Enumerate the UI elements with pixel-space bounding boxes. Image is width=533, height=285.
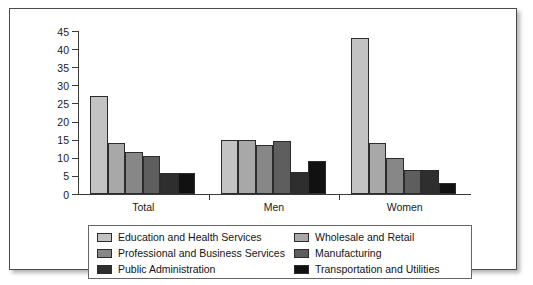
x-axis-group-separator [339, 195, 340, 200]
bar [369, 143, 387, 194]
y-axis-tick-label: 15 [57, 135, 69, 146]
legend-item[interactable]: Professional and Business Services [97, 246, 285, 261]
x-axis-category-label: Total [78, 201, 209, 213]
bar [386, 158, 404, 194]
legend-swatch-icon [294, 249, 309, 258]
legend-item-label: Manufacturing [315, 248, 382, 259]
chart-legend: Education and Health ServicesProfessiona… [88, 225, 472, 279]
legend-column-right: Wholesale and RetailManufacturingTranspo… [294, 230, 440, 278]
legend-swatch-icon [97, 249, 112, 258]
legend-swatch-icon [97, 233, 112, 242]
x-axis-category-label: Women [339, 201, 470, 213]
bar [238, 140, 256, 194]
legend-item[interactable]: Public Administration [97, 262, 285, 277]
legend-swatch-icon [294, 265, 309, 274]
y-axis-tick: 0 [72, 194, 79, 195]
x-axis-group-separator [209, 195, 210, 200]
bar [221, 140, 239, 194]
bar [404, 170, 422, 194]
plot-area [78, 31, 470, 194]
y-axis-tick-label: 45 [57, 26, 69, 37]
bar [351, 38, 369, 194]
bar [421, 170, 439, 194]
legend-item-label: Wholesale and Retail [315, 232, 414, 243]
y-axis-tick-label: 40 [57, 44, 69, 55]
x-axis-category-label: Men [209, 201, 340, 213]
bar [125, 152, 143, 194]
legend-swatch-icon [97, 265, 112, 274]
bar [90, 96, 108, 194]
y-axis-tick-label: 35 [57, 62, 69, 73]
legend-column-left: Education and Health ServicesProfessiona… [97, 230, 285, 278]
x-axis-line [78, 194, 471, 195]
y-axis-tick-label: 30 [57, 81, 69, 92]
legend-swatch-icon [294, 233, 309, 242]
bar [160, 173, 178, 194]
legend-item[interactable]: Education and Health Services [97, 230, 285, 245]
bar [273, 141, 291, 194]
y-axis-tick-label: 10 [57, 153, 69, 164]
legend-item[interactable]: Wholesale and Retail [294, 230, 440, 245]
y-axis-tick-label: 5 [63, 171, 69, 182]
bar [143, 156, 161, 194]
y-axis-tick-label: 25 [57, 99, 69, 110]
legend-item-label: Transportation and Utilities [315, 264, 440, 275]
bar [291, 172, 309, 194]
chart-frame: 051015202530354045 TotalMenWomen Educati… [9, 8, 517, 270]
legend-item[interactable]: Transportation and Utilities [294, 262, 440, 277]
screenshot-root: 051015202530354045 TotalMenWomen Educati… [0, 0, 533, 285]
bar [308, 161, 326, 194]
bar [178, 173, 196, 194]
bar [108, 143, 126, 194]
legend-item[interactable]: Manufacturing [294, 246, 440, 261]
bar [256, 145, 274, 194]
y-axis-tick-label: 20 [57, 117, 69, 128]
legend-item-label: Education and Health Services [118, 232, 262, 243]
legend-item-label: Public Administration [118, 264, 215, 275]
y-axis-tick-label: 0 [63, 189, 69, 200]
bar [439, 183, 457, 194]
legend-item-label: Professional and Business Services [118, 248, 285, 259]
